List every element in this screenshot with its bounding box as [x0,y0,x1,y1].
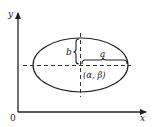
y-axis-label: y [7,9,14,19]
x-axis-label: x [140,113,145,123]
semi-major-label: a [100,49,105,59]
ellipse-diagram: y 0 x b a (α, β) [0,0,155,127]
origin-label: 0 [10,113,16,123]
center-label: (α, β) [83,70,106,80]
semi-minor-label: b [66,47,72,57]
brace-b [74,39,80,64]
